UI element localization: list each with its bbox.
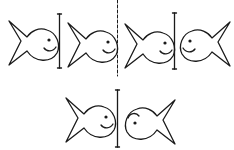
fish-6 xyxy=(125,100,175,144)
fish-1 xyxy=(9,21,59,65)
fish-5 xyxy=(66,98,116,142)
fish-3 xyxy=(125,24,175,68)
fish-2 xyxy=(68,23,118,67)
fish-diagram xyxy=(0,0,234,150)
fish-4 xyxy=(180,22,230,66)
